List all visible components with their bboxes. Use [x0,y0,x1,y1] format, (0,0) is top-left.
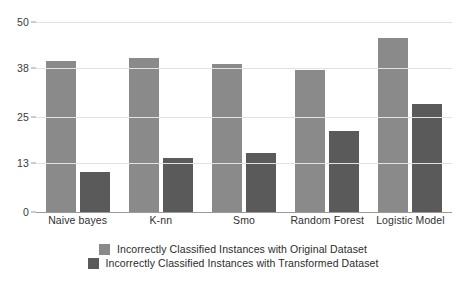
y-tick-mark-13 [31,162,36,163]
legend-swatch-icon-original [99,244,110,255]
y-axis-tick-label: 0 [23,206,29,218]
bar[interactable] [163,158,193,212]
gridline-25 [36,117,452,118]
legend-item-transformed: Incorrectly Classified Instances with Tr… [88,257,379,269]
bar[interactable] [412,104,442,212]
y-axis-tick-label: 13 [17,157,29,169]
bar-chart: 013253850 Naive bayesK-nnSmoRandom Fores… [0,0,466,286]
x-axis-category-label: Smo [202,214,285,226]
gridline-50 [36,22,452,23]
x-axis-category-label: K-nn [119,214,202,226]
bar[interactable] [212,64,242,212]
x-axis-category-label: Logistic Model [369,214,452,226]
plot-area: 013253850 [36,22,452,212]
y-tick-mark-0 [31,212,36,213]
y-tick-mark-38 [31,67,36,68]
legend-label-original: Incorrectly Classified Instances with Or… [117,243,367,255]
bar[interactable] [378,38,408,212]
x-axis-labels: Naive bayesK-nnSmoRandom ForestLogistic … [36,214,452,226]
gridline-13 [36,163,452,164]
y-tick-mark-25 [31,117,36,118]
y-axis-tick-label: 38 [17,62,29,74]
y-axis-tick-label: 25 [17,111,29,123]
legend-label-transformed: Incorrectly Classified Instances with Tr… [106,257,379,269]
legend-item-original: Incorrectly Classified Instances with Or… [99,243,367,255]
legend-swatch-icon-transformed [88,258,99,269]
y-axis-tick-label: 50 [17,16,29,28]
chart-legend: Incorrectly Classified Instances with Or… [0,243,466,269]
bar[interactable] [80,172,110,212]
bar[interactable] [46,61,76,212]
y-tick-mark-50 [31,22,36,23]
bar[interactable] [295,70,325,212]
gridline-38 [36,68,452,69]
x-axis-category-label: Naive bayes [36,214,119,226]
bar[interactable] [329,131,359,212]
gridline-0 [36,212,452,213]
x-axis-category-label: Random Forest [286,214,369,226]
bar[interactable] [129,58,159,212]
